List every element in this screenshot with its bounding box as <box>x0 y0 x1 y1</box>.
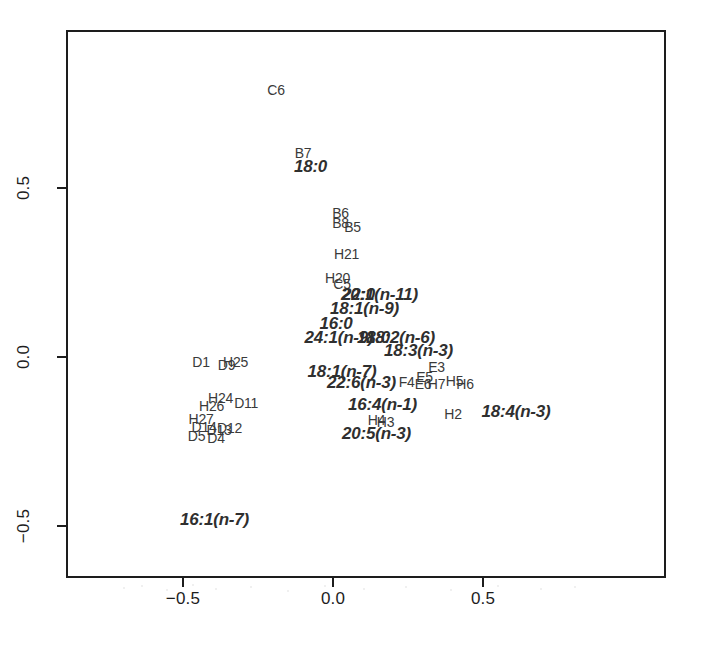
sample-point-label: D1 <box>192 355 209 369</box>
sample-point-label: H21 <box>334 247 359 261</box>
sample-point-label: H7 <box>428 377 445 391</box>
x-tick-label: 0.5 <box>471 589 495 609</box>
y-tick-label: 0.5 <box>14 176 34 200</box>
x-tick-mark <box>482 578 484 587</box>
variable-point-label: 18:0 <box>294 158 327 175</box>
sample-point-label: H2 <box>444 407 461 421</box>
variable-point-label: 22:6(n-3) <box>327 374 396 391</box>
sample-point-label: H6 <box>456 377 473 391</box>
variable-point-label: 18:3(n-3) <box>384 342 453 359</box>
sample-point-label: D4 <box>207 431 224 445</box>
variable-point-label: 16:1(n-7) <box>180 511 249 528</box>
sample-point-label: H25 <box>223 355 248 369</box>
y-tick-mark <box>57 525 66 527</box>
variable-point-label: 20:5(n-3) <box>342 425 411 442</box>
y-tick-label: −0.5 <box>14 509 34 543</box>
x-tick-mark <box>182 578 184 587</box>
biplot-figure: −0.50.00.5 −0.50.00.5 C6B7B6B8B5H21H20C5… <box>0 0 726 647</box>
sample-point-label: D5 <box>188 429 205 443</box>
x-tick-mark <box>332 578 334 587</box>
variable-point-label: 18:4(n-3) <box>481 403 550 420</box>
sample-point-label: B5 <box>344 220 361 234</box>
variable-point-label: 16:4(n-1) <box>348 396 417 413</box>
x-tick-label: −0.5 <box>166 589 200 609</box>
y-tick-mark <box>57 187 66 189</box>
y-tick-label: 0.0 <box>14 345 34 369</box>
sample-point-label: C6 <box>267 83 284 97</box>
y-tick-mark <box>57 356 66 358</box>
sample-point-label: D11 <box>234 396 258 410</box>
x-tick-label: 0.0 <box>321 589 345 609</box>
sample-point-label: F4 <box>399 375 415 389</box>
